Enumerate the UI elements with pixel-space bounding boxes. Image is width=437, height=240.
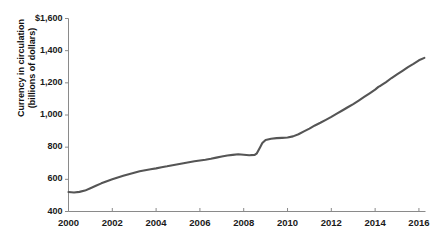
axis-spines bbox=[69, 19, 426, 212]
y-axis-tick-marks bbox=[65, 19, 69, 212]
line-chart-plot bbox=[0, 0, 437, 240]
y-axis-title-line-1: Currency in circulation bbox=[16, 0, 27, 153]
x-tick-label: 2016 bbox=[399, 217, 437, 228]
y-tick-label: 600 bbox=[19, 173, 63, 183]
x-tick-label: 2006 bbox=[180, 217, 220, 228]
y-axis-title: Currency in circulation (billions of dol… bbox=[16, 0, 40, 153]
x-tick-label: 2004 bbox=[136, 217, 176, 228]
data-series-line bbox=[69, 58, 425, 193]
x-tick-label: 2008 bbox=[224, 217, 264, 228]
chart-figure: 4006008001,0001,2001,400$1,600 200020022… bbox=[0, 0, 437, 240]
x-tick-label: 2012 bbox=[311, 217, 351, 228]
x-axis-tick-marks bbox=[69, 208, 419, 212]
x-tick-label: 2000 bbox=[49, 217, 89, 228]
x-tick-label: 2010 bbox=[268, 217, 308, 228]
x-tick-label: 2014 bbox=[355, 217, 395, 228]
y-tick-label: 400 bbox=[19, 206, 63, 216]
x-tick-label: 2002 bbox=[92, 217, 132, 228]
y-axis-title-line-2: (billions of dollars) bbox=[27, 0, 38, 153]
